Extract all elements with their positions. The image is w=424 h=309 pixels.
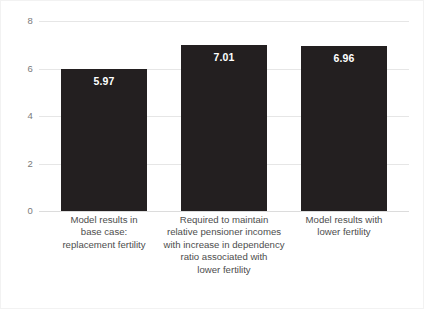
category-label-1: Required to maintain relative pensioner … — [149, 214, 299, 276]
category-label-2: Model results with lower fertility — [279, 214, 409, 239]
category-label-1-line-1: relative pensioner incomes — [149, 226, 299, 238]
bar-value-label-1: 7.01 — [181, 51, 267, 63]
bar-value-label-0: 5.97 — [61, 75, 147, 87]
category-label-2-line-0: Model results with — [279, 214, 409, 226]
y-tick-label-2: 2 — [7, 159, 33, 169]
bar-chart-figure: 8 6 4 2 0 5.97 7.01 6.96 Model results i… — [0, 0, 424, 309]
bar-group-0[interactable]: 5.97 — [61, 21, 147, 211]
bar-group-1[interactable]: 7.01 — [181, 21, 267, 211]
bar-group-2[interactable]: 6.96 — [301, 21, 387, 211]
category-label-1-line-4: lower fertility — [149, 264, 299, 276]
bar-1[interactable] — [181, 45, 267, 212]
y-tick-label-0: 0 — [7, 206, 33, 216]
category-label-1-line-0: Required to maintain — [149, 214, 299, 226]
bar-0[interactable] — [61, 69, 147, 211]
category-label-1-line-2: with increase in dependency — [149, 239, 299, 251]
bar-value-label-2: 6.96 — [301, 52, 387, 64]
gridline-0-baseline — [39, 211, 409, 212]
y-tick-label-6: 6 — [7, 64, 33, 74]
x-axis-category-labels: Model results in base case: replacement … — [39, 214, 409, 306]
category-label-1-line-3: ratio associated with — [149, 251, 299, 263]
bar-2[interactable] — [301, 46, 387, 211]
y-axis: 8 6 4 2 0 — [1, 21, 33, 211]
y-tick-label-4: 4 — [7, 111, 33, 121]
plot-area: 5.97 7.01 6.96 — [39, 21, 409, 211]
y-tick-label-8: 8 — [7, 16, 33, 26]
category-label-2-line-1: lower fertility — [279, 226, 409, 238]
